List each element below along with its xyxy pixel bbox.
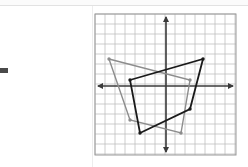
image-quadrilateral-vertex-dot xyxy=(138,131,141,134)
left-page-area xyxy=(0,6,93,167)
preimage-quadrilateral-vertex-dot xyxy=(188,78,191,81)
preimage-quadrilateral-vertex-dot xyxy=(179,131,182,134)
image-quadrilateral-vertex-dot xyxy=(188,107,191,110)
page-edge-marker xyxy=(0,68,8,73)
image-quadrilateral-vertex-dot xyxy=(201,57,204,60)
preimage-quadrilateral-vertex-dot xyxy=(107,57,110,60)
image-quadrilateral-vertex-dot xyxy=(128,78,131,81)
preimage-quadrilateral-vertex-dot xyxy=(128,118,131,121)
coordinate-plane-svg xyxy=(94,13,237,156)
page-root xyxy=(0,0,248,167)
graph-panel xyxy=(94,13,237,156)
